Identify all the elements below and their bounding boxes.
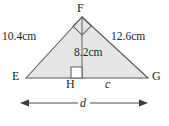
vertex-label-h: H xyxy=(66,78,75,90)
dimension-arrowhead-left xyxy=(20,99,29,106)
dimension-arrowhead-right xyxy=(139,99,148,106)
vertex-label-e: E xyxy=(12,70,19,82)
unknown-label-c: c xyxy=(105,78,110,90)
vertex-label-f: F xyxy=(77,2,84,14)
side-length-label-ef: 10.4cm xyxy=(2,31,36,43)
geometry-figure: F E G H 10.4cm 12.6cm 8.2cm c d xyxy=(0,0,169,126)
unknown-label-d: d xyxy=(80,97,86,109)
vertex-label-g: G xyxy=(152,70,161,82)
altitude-length-label-fh: 8.2cm xyxy=(74,47,102,59)
side-length-label-fg: 12.6cm xyxy=(111,31,145,43)
